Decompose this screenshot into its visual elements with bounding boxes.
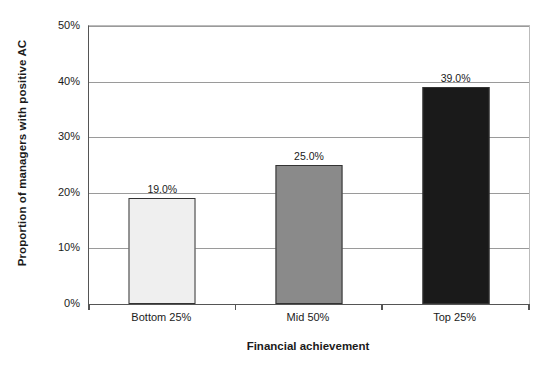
x-tick-mark: [381, 304, 383, 310]
bar[interactable]: [422, 87, 489, 304]
y-tick-label: 40%: [58, 75, 80, 87]
y-axis-title-text: Proportion of managers with positive AC: [16, 39, 28, 265]
bars-layer: 19.0%25.0%39.0%: [89, 26, 529, 304]
x-tick-mark: [235, 304, 237, 310]
x-tick-label: Mid 50%: [287, 311, 330, 323]
x-axis-tick-labels: Bottom 25%Mid 50%Top 25%: [88, 311, 528, 331]
bar[interactable]: [275, 165, 342, 304]
bar-group: 25.0%: [236, 26, 383, 304]
bar-group: 39.0%: [382, 26, 529, 304]
y-axis-tick-labels: 0%10%20%30%40%50%: [44, 25, 86, 303]
x-tick-mark: [528, 304, 530, 310]
y-tick-label: 0%: [64, 297, 80, 309]
y-tick-label: 20%: [58, 186, 80, 198]
y-tick-label: 10%: [58, 241, 80, 253]
bar-value-label: 19.0%: [147, 183, 177, 195]
bar-value-label: 25.0%: [294, 150, 324, 162]
bar[interactable]: [129, 198, 196, 304]
x-tick-mark: [88, 304, 90, 310]
plot-area: 19.0%25.0%39.0%: [88, 25, 530, 305]
x-tick-label: Top 25%: [433, 311, 476, 323]
y-tick-label: 50%: [58, 19, 80, 31]
x-tick-label: Bottom 25%: [131, 311, 191, 323]
bar-group: 19.0%: [89, 26, 236, 304]
x-axis-title: Financial achievement: [88, 340, 528, 352]
y-axis-title: Proportion of managers with positive AC: [0, 0, 44, 305]
y-tick-label: 30%: [58, 130, 80, 142]
x-axis-ticks: [88, 304, 529, 310]
bar-value-label: 39.0%: [441, 72, 471, 84]
bar-chart: Proportion of managers with positive AC …: [0, 0, 553, 371]
